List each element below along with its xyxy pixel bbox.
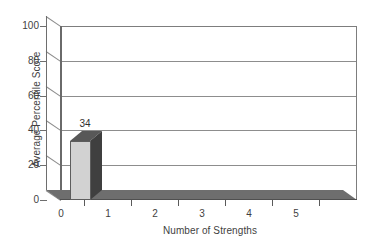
gridline-40: [60, 130, 357, 131]
gridline-80: [60, 61, 357, 62]
x-axis-title: Number of Strengths: [60, 225, 360, 236]
y-tick-20: [40, 165, 47, 166]
x-tick-5: [319, 200, 320, 206]
y-tick-0: [40, 200, 47, 201]
gridline-connector-60: [46, 86, 61, 97]
y-tick-40: [40, 130, 47, 131]
x-axis-line: [60, 199, 357, 200]
plot-area: 100 80 60 40 20 0 0 1 2 3 4 5 34: [0, 0, 380, 247]
gridline-100: [60, 26, 357, 27]
gridline-60: [60, 96, 357, 97]
x-tick-label-2: 2: [140, 208, 170, 219]
x-tick-label-1: 1: [93, 208, 123, 219]
x-tick-label-5: 5: [281, 208, 311, 219]
bar-0-value-label: 34: [65, 119, 105, 129]
bar-0-front-face: [70, 141, 91, 200]
gridline-connector-100: [46, 16, 61, 27]
y-tick-label-20: 20: [0, 160, 39, 170]
y-tick-100: [40, 26, 47, 27]
x-tick-3: [225, 200, 226, 206]
bar-0-side-face: [90, 131, 102, 200]
y-tick-label-80: 80: [0, 56, 39, 66]
y-axis-front-spine: [60, 26, 62, 200]
y-axis-back-spine: [46, 16, 47, 190]
gridline-connector-80: [46, 51, 61, 62]
x-tick-label-0: 0: [46, 208, 76, 219]
x-tick-label-3: 3: [187, 208, 217, 219]
x-tick-1: [131, 200, 132, 206]
y-tick-label-0: 0: [0, 195, 39, 205]
y-tick-label-60: 60: [0, 91, 39, 101]
bar-chart: Average Percentile Score 100 80 6: [0, 0, 380, 247]
y-tick-60: [40, 96, 47, 97]
gridline-20: [60, 165, 357, 166]
gridline-connector-20: [46, 155, 61, 166]
y-tick-80: [40, 61, 47, 62]
plot-right-frame: [356, 26, 357, 200]
x-tick-2: [178, 200, 179, 206]
gridline-connector-40: [46, 120, 61, 131]
x-tick-4: [272, 200, 273, 206]
y-tick-label-40: 40: [0, 125, 39, 135]
y-tick-label-100: 100: [0, 21, 39, 31]
x-tick-label-4: 4: [234, 208, 264, 219]
x-tick-0: [84, 200, 85, 206]
